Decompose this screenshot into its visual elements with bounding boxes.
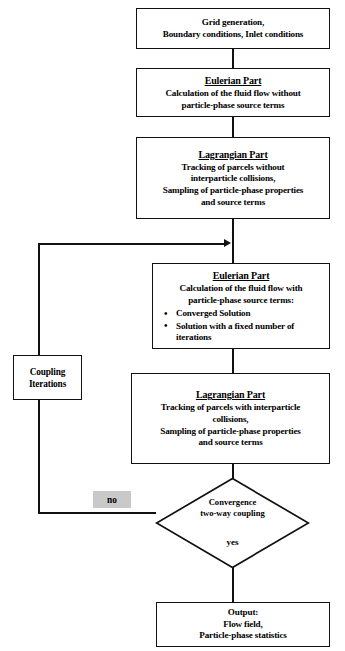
feedback-bottom-segment: [38, 512, 156, 514]
node-output-line-2: Flow field,: [223, 619, 262, 631]
node-lagrangian-part-second[interactable]: Lagrangian Part Tracking of parcels with…: [131, 373, 330, 464]
node-lagrangian-part-first-line-2: interparticle collisions,: [191, 173, 276, 185]
connector-eulerian2-to-lagrangian2: [232, 348, 234, 374]
decision-no-label: no: [93, 491, 131, 508]
node-output-line-3: Particle-phase statistics: [199, 630, 286, 642]
flowchart-canvas: Grid generation, Boundary conditions, In…: [0, 0, 345, 651]
node-eulerian-part-first-line-1: Calculation of the fluid flow without: [165, 88, 300, 100]
node-eulerian-part-second-bullet-list: Converged Solution Solution with a fixed…: [153, 308, 329, 344]
node-lagrangian-part-second-title: Lagrangian Part: [196, 388, 265, 401]
node-eulerian-part-first-line-2: particle-phase source terms: [182, 100, 285, 112]
decision-label: Convergence two-way coupling: [155, 497, 310, 519]
bullet-item: Solution with a fixed number of iteratio…: [163, 321, 327, 344]
node-eulerian-part-first-title: Eulerian Part: [205, 74, 262, 87]
connector-lagrangian1-to-eulerian2: [232, 218, 234, 264]
node-grid-generation[interactable]: Grid generation, Boundary conditions, In…: [136, 8, 330, 49]
node-coupling-iterations[interactable]: Coupling Iterations: [13, 355, 82, 400]
bullet-item: Converged Solution: [163, 308, 327, 319]
connector-decision-to-output: [232, 567, 234, 603]
node-coupling-iterations-line-2: Iterations: [29, 378, 66, 390]
node-output-line-1: Output:: [228, 607, 258, 619]
decision-label-line-1: Convergence: [209, 497, 257, 507]
node-eulerian-part-second[interactable]: Eulerian Part Calculation of the fluid f…: [152, 263, 330, 349]
feedback-top-segment: [38, 243, 226, 245]
node-coupling-iterations-line-1: Coupling: [30, 366, 66, 378]
node-eulerian-part-second-line-1: Calculation of the fluid flow with: [180, 283, 303, 295]
node-lagrangian-part-second-line-2: collisions,: [213, 414, 249, 426]
node-lagrangian-part-first-title: Lagrangian Part: [198, 148, 267, 161]
node-grid-generation-line-2: Boundary conditions, Inlet conditions: [163, 29, 304, 41]
node-decision-convergence[interactable]: Convergence two-way coupling yes: [155, 477, 310, 569]
node-eulerian-part-second-line-2: particle-phase source terms:: [188, 295, 294, 307]
decision-label-line-2: two-way coupling: [200, 508, 265, 518]
node-lagrangian-part-first[interactable]: Lagrangian Part Tracking of parcels with…: [136, 137, 330, 219]
node-eulerian-part-second-title: Eulerian Part: [213, 269, 270, 282]
node-lagrangian-part-first-line-4: and source terms: [201, 197, 265, 209]
node-grid-generation-line-1: Grid generation,: [202, 17, 264, 29]
decision-yes-label: yes: [155, 537, 310, 547]
feedback-arrowhead-icon: [224, 239, 231, 247]
decision-diamond-shape: [155, 477, 310, 569]
node-lagrangian-part-first-line-3: Sampling of particle-phase properties: [163, 185, 304, 197]
node-lagrangian-part-second-line-1: Tracking of parcels with interparticle: [161, 402, 300, 414]
connector-eulerian1-to-lagrangian1: [232, 116, 234, 138]
node-lagrangian-part-second-line-4: and source terms: [198, 437, 262, 449]
connector-start-to-eulerian1: [232, 48, 234, 69]
node-lagrangian-part-first-line-1: Tracking of parcels without: [182, 162, 285, 174]
node-eulerian-part-first[interactable]: Eulerian Part Calculation of the fluid f…: [136, 68, 330, 117]
node-output[interactable]: Output: Flow field, Particle-phase stati…: [156, 602, 330, 647]
node-lagrangian-part-second-line-3: Sampling of particle-phase properties: [160, 426, 301, 438]
